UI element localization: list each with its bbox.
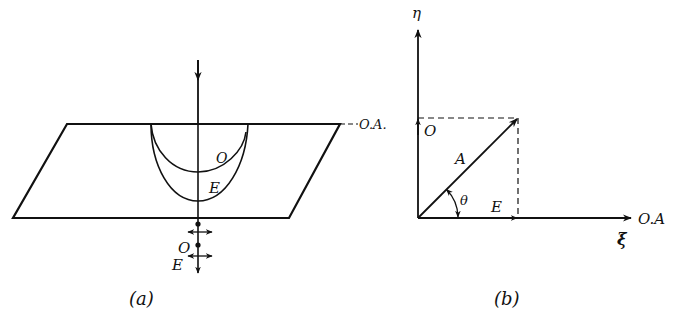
- optic-axis-label-a: O.A.: [359, 117, 387, 132]
- ordinary-component-label: O: [424, 122, 436, 140]
- vector-a-label: A: [453, 150, 466, 168]
- birefringence-figure: O E O E O.A. (a) η O.A ξ A O E: [0, 0, 674, 320]
- optic-axis-label-b: O.A: [638, 210, 665, 228]
- polarization-dot-1: [195, 221, 200, 226]
- caption-a: (a): [129, 288, 154, 309]
- crystal-plate: [13, 124, 340, 218]
- output-ordinary-label: O: [178, 239, 190, 257]
- extraordinary-wavefront-label: E: [208, 179, 220, 197]
- xi-axis-label: ξ: [617, 230, 628, 249]
- output-extraordinary-label: E: [171, 256, 183, 274]
- ordinary-wavefront-label: O: [216, 150, 228, 166]
- extraordinary-component-label: E: [490, 198, 502, 216]
- extraordinary-wavefront: [151, 124, 248, 201]
- panel-a: O E O E O.A. (a): [13, 60, 387, 309]
- theta-angle-arc: [447, 190, 459, 218]
- eta-axis-label: η: [412, 4, 421, 22]
- panel-b: η O.A ξ A O E θ (b): [412, 4, 665, 309]
- polarization-dot-2: [195, 242, 200, 247]
- caption-b: (b): [494, 288, 520, 309]
- theta-label: θ: [460, 193, 468, 208]
